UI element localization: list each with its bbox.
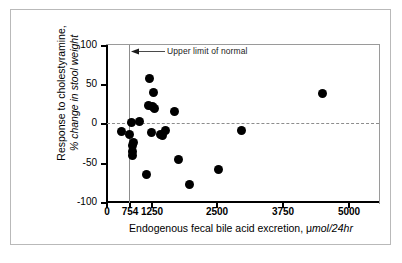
zero-reference-line [107,123,379,124]
x-tick-label-5000: 5000 [326,206,372,218]
data-point [214,165,223,174]
y-tick-label-50: 50 [63,79,97,89]
data-point [127,118,136,127]
y-tick-label-100: 100 [63,40,97,50]
x-axis-title: Endogenous fecal bile acid excretion, μm… [86,222,396,234]
y-tick-label-0: 0 [63,118,97,128]
x-axis-title-italic: mol/24hr [312,222,353,234]
data-point [161,126,170,135]
x-tick-label-1250: 1250 [129,206,175,218]
x-tick-label-3750: 3750 [260,206,306,218]
data-point [237,126,246,135]
data-point [142,170,151,179]
left-arrow-icon [131,47,165,56]
x-axis-title-plain: Endogenous fecal bile acid excretion, μ [129,222,312,234]
figure-container: Response to cholestyramine, % change in … [0,0,402,263]
plot-right-spine [379,44,380,204]
figure-frame: Response to cholestyramine, % change in … [10,9,391,245]
y-axis-title-line2: % change in stool weight [68,35,80,151]
annotation-upper-limit-of-normal: Upper limit of normal [131,45,248,57]
x-tick-label-2500: 2500 [194,206,240,218]
data-point [147,128,156,137]
y-tick-label-n50: -50 [63,158,97,168]
plot-area [106,45,379,203]
annotation-label: Upper limit of normal [167,46,248,56]
